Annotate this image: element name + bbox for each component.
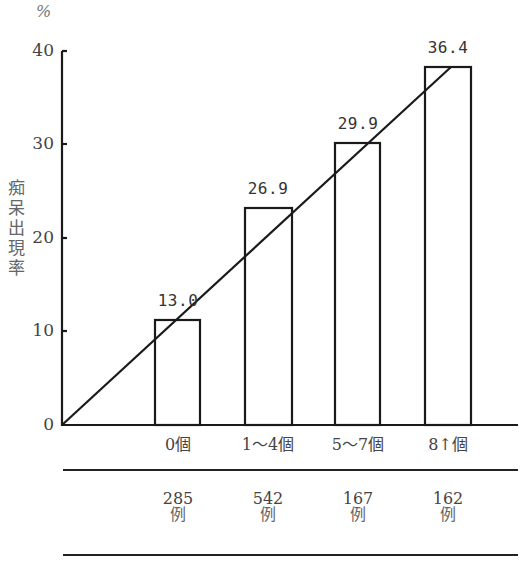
category-label: 8↑個: [403, 431, 493, 455]
case-count-unit: 例: [238, 507, 298, 523]
category-label: 1～4個: [223, 431, 313, 455]
bar-value-label: 36.4: [418, 38, 478, 57]
bar-value-label: 13.0: [148, 291, 208, 310]
bar-2: [335, 143, 380, 425]
case-count: 542 例: [238, 491, 298, 523]
category-label: 0個: [133, 431, 223, 455]
category-label: 5～7個: [313, 431, 403, 455]
bar-3: [425, 67, 471, 425]
bar-0: [155, 320, 200, 425]
table-separator-top: [63, 469, 518, 471]
trend-line: [62, 67, 451, 425]
case-count-unit: 例: [148, 507, 208, 523]
case-count: 285 例: [148, 491, 208, 523]
chart-plot-area: [0, 0, 521, 564]
table-separator-bottom: [63, 554, 518, 556]
case-count: 162 例: [418, 491, 478, 523]
case-count: 167 例: [328, 491, 388, 523]
case-count-unit: 例: [328, 507, 388, 523]
bar-value-label: 26.9: [238, 179, 298, 198]
bar-1: [245, 208, 292, 425]
case-count-unit: 例: [418, 507, 478, 523]
bar-value-label: 29.9: [328, 114, 388, 133]
